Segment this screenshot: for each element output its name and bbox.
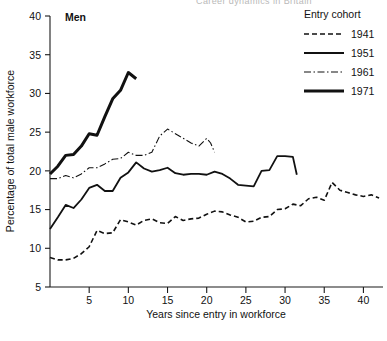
legend-label-1941: 1941 — [351, 28, 375, 40]
chart-figure: Career dynamics in Britain 5101520253035… — [0, 0, 387, 341]
x-tick-label: 35 — [318, 294, 330, 306]
line-chart: 510152025303540 510152025303540 Percenta… — [0, 0, 387, 341]
panel-label-men: Men — [65, 11, 86, 23]
x-tick-label: 10 — [123, 294, 135, 306]
x-tick-label: 30 — [279, 294, 291, 306]
x-tick-label: 40 — [358, 294, 370, 306]
series-lines — [50, 73, 379, 260]
y-tick-label: 30 — [29, 87, 41, 99]
x-axis-ticks: 510152025303540 — [86, 287, 369, 306]
legend-label-1971: 1971 — [351, 85, 375, 97]
x-tick-label: 20 — [201, 294, 213, 306]
y-tick-label: 5 — [35, 281, 41, 293]
x-axis-title: Years since entry in workforce — [146, 308, 286, 320]
series-line-1941 — [50, 182, 379, 259]
series-line-1971 — [50, 73, 136, 174]
y-tick-label: 25 — [29, 126, 41, 138]
legend: 1941195119611971 — [304, 28, 375, 97]
y-tick-label: 20 — [29, 165, 41, 177]
y-axis-title: Percentage of total male workforce — [4, 70, 16, 232]
y-tick-label: 40 — [29, 10, 41, 22]
x-tick-label: 5 — [86, 294, 92, 306]
y-tick-label: 35 — [29, 49, 41, 61]
y-axis-ticks: 510152025303540 — [29, 10, 50, 293]
x-tick-label: 25 — [240, 294, 252, 306]
x-tick-label: 15 — [162, 294, 174, 306]
y-tick-label: 10 — [29, 242, 41, 254]
legend-title: Entry cohort — [304, 8, 361, 20]
legend-label-1951: 1951 — [351, 47, 375, 59]
legend-label-1961: 1961 — [351, 66, 375, 78]
y-tick-label: 15 — [29, 203, 41, 215]
